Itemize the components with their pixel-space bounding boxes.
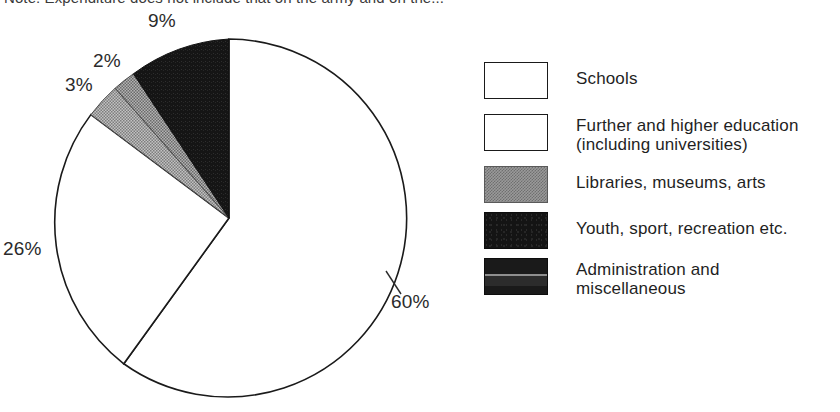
legend-item-schools: Schools: [484, 62, 638, 99]
pie-label-administration: 9%: [148, 10, 176, 32]
legend-label-further-higher-education: Further and higher education (including …: [576, 114, 799, 154]
legend-item-youth-sport-recreation: Youth, sport, recreation etc.: [484, 212, 788, 249]
pie-label-youth-sport: 2%: [93, 50, 121, 72]
legend-swatch-schools: [484, 62, 548, 99]
legend-swatch-administration-miscellaneous: [484, 258, 548, 295]
chart-canvas: Note: Expenditure does not include that …: [0, 0, 840, 412]
legend-label-schools: Schools: [576, 62, 638, 88]
legend-item-further-higher-education: Further and higher education (including …: [484, 114, 799, 154]
pie-label-schools: 60%: [391, 291, 430, 313]
legend-item-administration-miscellaneous: Administration and miscellaneous: [484, 258, 720, 298]
pie-chart-svg: [0, 0, 470, 412]
legend-item-libraries-museums-arts: Libraries, museums, arts: [484, 166, 766, 203]
legend-swatch-further-higher-education: [484, 114, 548, 151]
legend-label-youth-sport-recreation: Youth, sport, recreation etc.: [576, 212, 788, 238]
pie-label-further-higher: 26%: [3, 238, 42, 260]
legend-swatch-libraries-museums-arts: [484, 166, 548, 203]
legend-label-administration-miscellaneous: Administration and miscellaneous: [576, 258, 720, 298]
legend-label-libraries-museums-arts: Libraries, museums, arts: [576, 166, 766, 192]
pie-label-libraries: 3%: [65, 74, 93, 96]
pie-chart: 9% 2% 3% 26% 60%: [0, 0, 470, 412]
legend-swatch-youth-sport-recreation: [484, 212, 548, 249]
